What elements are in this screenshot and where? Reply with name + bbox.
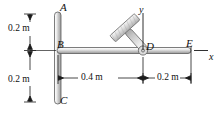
arrow-up-top xyxy=(28,15,33,20)
dimension-label-vertical-bottom: 0.2 m xyxy=(8,75,30,85)
dimension-label-horizontal-right: 0.2 m xyxy=(157,73,179,83)
point-label-D: D xyxy=(146,41,154,52)
arrow-up-bottom xyxy=(28,52,33,57)
arrow-down-top xyxy=(28,44,33,49)
arrow-02-left xyxy=(143,76,148,81)
dimension-label-vertical-top: 0.2 m xyxy=(8,24,30,34)
y-axis-label: y xyxy=(139,5,143,15)
dimension-label-horizontal-left: 0.4 m xyxy=(81,73,103,83)
diagram-svg xyxy=(0,0,223,115)
horizontal-rod-BE xyxy=(57,48,191,54)
point-label-C: C xyxy=(60,95,67,106)
point-label-A: A xyxy=(60,2,67,13)
arrow-down-bottom xyxy=(28,96,33,101)
tilted-member-at-D xyxy=(110,14,159,63)
arrow-02-right xyxy=(186,76,191,81)
rod-body xyxy=(57,48,191,54)
x-axis-label: x xyxy=(209,52,213,62)
arrow-04-right xyxy=(138,76,143,81)
point-label-B: B xyxy=(57,39,64,50)
figure-canvas: A B C D E x y 0.2 m 0.2 m 0.4 m 0.2 m xyxy=(0,0,223,115)
point-label-E: E xyxy=(186,38,193,49)
